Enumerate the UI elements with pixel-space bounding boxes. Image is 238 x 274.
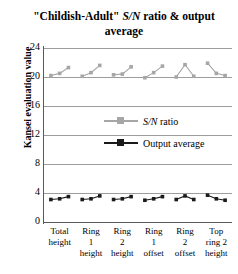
series-line-1-group-3 (145, 197, 163, 201)
gridline-16 (44, 106, 232, 107)
y-tick-label-0: 0 (14, 215, 40, 226)
data-point-1-1-1 (89, 197, 93, 201)
legend-swatch-output-average (104, 142, 138, 144)
data-point-0-3-2 (161, 64, 165, 68)
data-point-0-0-2 (67, 66, 71, 70)
y-tick-label-20: 20 (14, 70, 40, 81)
data-point-1-4-0 (174, 198, 178, 202)
data-point-0-4-1 (183, 63, 187, 67)
series-line-0-group-3 (145, 66, 163, 78)
gridline-0 (44, 222, 232, 223)
x-axis-tick-labels: TotalheightRing1heightRing2heightRing1of… (44, 226, 232, 272)
data-point-0-1-2 (98, 64, 102, 68)
chart-title-italic: S/N (122, 10, 140, 22)
y-tick-label-24: 24 (14, 41, 40, 52)
data-point-1-5-2 (223, 198, 227, 202)
data-point-1-0-1 (58, 197, 62, 201)
data-point-1-0-0 (49, 198, 53, 202)
series-line-0-group-5 (208, 63, 226, 75)
data-point-1-2-0 (112, 198, 116, 202)
chart-legend: S/N ratio Output average (104, 110, 230, 154)
data-point-1-3-0 (143, 198, 147, 202)
data-point-1-5-1 (215, 197, 219, 201)
data-point-0-0-1 (58, 72, 62, 76)
y-tick-label-4: 4 (14, 186, 40, 197)
series-line-0-group-4 (176, 65, 194, 77)
y-tick-label-12: 12 (14, 128, 40, 139)
chart-container: "Childish-Adult" S/N ratio & output aver… (0, 0, 238, 274)
legend-label-sn-ratio: S/N ratio (143, 116, 178, 127)
legend-item-sn-ratio: S/N ratio (104, 110, 230, 132)
data-point-1-4-1 (183, 194, 187, 198)
series-line-1-group-1 (82, 196, 100, 200)
series-line-0-group-0 (51, 68, 69, 76)
data-point-1-3-2 (161, 195, 165, 199)
x-tick-label-2: Ring2height (107, 226, 138, 272)
series-line-0-group-1 (82, 65, 100, 76)
gridline-4 (44, 193, 232, 194)
data-point-0-5-1 (215, 72, 219, 76)
y-axis-tick-labels: 04812162024 (10, 48, 40, 222)
data-point-1-2-2 (129, 195, 133, 199)
x-tick-label-0: Totalheight (44, 226, 75, 272)
data-point-0-5-0 (206, 61, 210, 65)
series-line-0-group-2 (114, 67, 132, 75)
series-line-1-group-2 (114, 197, 132, 200)
x-tick-label-3: Ring1offset (138, 226, 169, 272)
gridline-24 (44, 48, 232, 49)
chart-title-line1: "Childish-Adult" S/N ratio & (33, 10, 179, 22)
x-tick-label-5: Topring 2height (201, 226, 232, 272)
series-line-1-group-0 (51, 197, 69, 200)
data-point-0-2-1 (121, 72, 125, 76)
y-tick-label-16: 16 (14, 99, 40, 110)
data-point-1-3-1 (152, 197, 156, 201)
data-point-0-3-1 (152, 71, 156, 75)
data-point-1-0-2 (67, 195, 71, 199)
x-tick-label-4: Ring2offset (169, 226, 200, 272)
y-tick-label-8: 8 (14, 157, 40, 168)
data-point-1-1-0 (80, 198, 84, 202)
legend-item-output-average: Output average (104, 132, 230, 154)
legend-label-output-average: Output average (143, 138, 204, 149)
data-point-0-2-2 (129, 65, 133, 69)
data-point-1-4-2 (192, 198, 196, 202)
data-point-1-1-2 (98, 194, 102, 198)
x-tick-label-1: Ring1height (75, 226, 106, 272)
chart-title: "Childish-Adult" S/N ratio & output aver… (18, 9, 230, 39)
data-point-1-2-1 (121, 197, 125, 201)
gridline-20 (44, 77, 232, 78)
series-line-1-group-5 (208, 195, 226, 200)
gridline-8 (44, 164, 232, 165)
series-line-1-group-4 (176, 196, 194, 200)
data-point-0-1-1 (89, 71, 93, 75)
legend-swatch-sn-ratio (104, 120, 138, 122)
